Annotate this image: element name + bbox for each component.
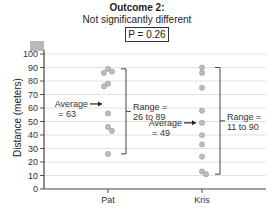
data-point	[105, 151, 110, 156]
data-point	[109, 128, 114, 133]
data-point	[109, 69, 114, 74]
data-point	[199, 85, 204, 90]
data-point	[105, 124, 110, 129]
y-tick-label: 20	[28, 157, 38, 167]
y-tick-label: 80	[28, 76, 38, 86]
data-point	[101, 84, 106, 89]
data-point	[199, 154, 204, 159]
data-point	[199, 70, 204, 75]
y-tick-label: 40	[28, 130, 38, 140]
y-tick-label: 10	[28, 171, 38, 181]
data-point	[203, 172, 208, 177]
x-tick-label: Kris	[194, 195, 210, 205]
average-label: Average	[149, 118, 182, 128]
range-label: Range =	[133, 102, 167, 112]
data-point	[101, 70, 106, 75]
data-point	[199, 132, 204, 137]
average-value: = 63	[58, 109, 76, 119]
range-bracket	[215, 68, 220, 175]
range-bracket	[121, 69, 126, 154]
y-tick-label: 50	[28, 117, 38, 127]
average-label: Average	[55, 99, 88, 109]
scatter-plot: 0102030405060708090100PatRange =26 to 89…	[0, 0, 274, 215]
data-point	[199, 120, 204, 125]
data-point	[199, 142, 204, 147]
range-label: 11 to 90	[227, 122, 259, 132]
y-tick-label: 0	[33, 184, 38, 194]
average-value: = 49	[152, 128, 170, 138]
y-tick-label: 70	[28, 90, 38, 100]
y-tick-label: 100	[23, 49, 38, 59]
data-point	[105, 111, 110, 116]
arrow-head-icon	[98, 101, 102, 106]
x-tick-label: Pat	[101, 195, 115, 205]
data-point	[199, 108, 204, 113]
y-tick-label: 60	[28, 103, 38, 113]
range-label: Range =	[227, 112, 261, 122]
y-tick-label: 90	[28, 63, 38, 73]
data-point	[199, 65, 204, 70]
y-tick-label: 30	[28, 144, 38, 154]
